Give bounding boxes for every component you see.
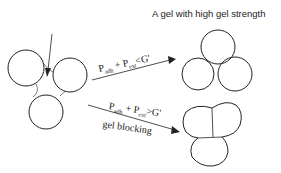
diagram-canvas: A gel with high gel strength bbox=[0, 0, 281, 173]
diagram-graphics bbox=[0, 0, 281, 173]
gel-particle-right bbox=[218, 57, 252, 91]
particle-left bbox=[8, 50, 44, 86]
particle-bottom bbox=[29, 95, 63, 129]
gel-particle-top bbox=[201, 30, 235, 64]
particle-right bbox=[53, 58, 87, 92]
gel-particle-left bbox=[182, 58, 214, 90]
